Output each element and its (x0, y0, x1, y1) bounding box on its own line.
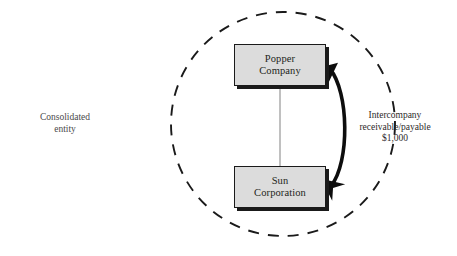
sun-corporation-label: Sun Corporation (254, 175, 306, 200)
sun-corporation-node[interactable]: Sun Corporation (234, 166, 326, 208)
popper-company-node[interactable]: Popper Company (234, 44, 326, 86)
consolidated-entity-label: Consolidated entity (14, 112, 116, 135)
intercompany-double-arrow (330, 69, 345, 186)
intercompany-amount-label: Intercompany receivable/payable $1,000 (345, 110, 445, 145)
diagram-canvas: Popper Company Sun Corporation Consolida… (0, 0, 457, 256)
popper-company-label: Popper Company (259, 53, 301, 78)
